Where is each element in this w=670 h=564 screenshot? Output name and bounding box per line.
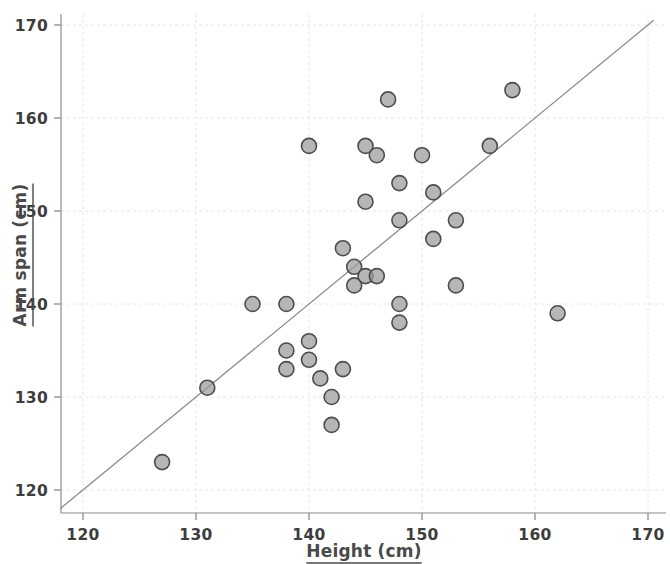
data-point: [482, 138, 497, 153]
data-point: [392, 176, 407, 191]
x-axis-title-text: Height (cm): [306, 541, 421, 561]
data-point: [426, 231, 441, 246]
data-point: [392, 213, 407, 228]
data-point: [245, 297, 260, 312]
data-point: [313, 371, 328, 386]
data-point: [302, 334, 317, 349]
x-tick-label-120: 120: [66, 526, 99, 544]
data-point: [335, 362, 350, 377]
x-tick-label-160: 160: [518, 526, 551, 544]
x-tick-label-130: 130: [179, 526, 212, 544]
data-point: [155, 455, 170, 470]
data-point: [415, 148, 430, 163]
data-point: [335, 241, 350, 256]
y-tick-label-170: 170: [15, 17, 48, 35]
data-point: [279, 297, 294, 312]
x-axis-label: Height (cm): [306, 541, 421, 563]
data-point: [381, 92, 396, 107]
y-axis-title-text: Arm span (cm): [10, 184, 30, 327]
scatter-plot-figure: 120130140150160170 120130140150160170 Ar…: [0, 0, 670, 564]
x-tick-label-170: 170: [631, 526, 664, 544]
data-point: [392, 297, 407, 312]
data-point: [448, 278, 463, 293]
y-tick-label-120: 120: [15, 482, 48, 500]
data-point: [392, 315, 407, 330]
data-point: [505, 83, 520, 98]
data-point: [279, 362, 294, 377]
y-tick-label-160: 160: [15, 110, 48, 128]
data-point: [279, 343, 294, 358]
data-point: [200, 380, 215, 395]
data-point: [324, 417, 339, 432]
data-point: [324, 390, 339, 405]
data-point: [358, 194, 373, 209]
data-point: [302, 138, 317, 153]
scatter-plot-svg: 120130140150160170 120130140150160170 Ar…: [0, 0, 670, 564]
data-point: [302, 352, 317, 367]
data-point: [550, 306, 565, 321]
data-point: [448, 213, 463, 228]
data-point: [426, 185, 441, 200]
data-point: [369, 148, 384, 163]
data-point: [369, 269, 384, 284]
y-axis-label: Arm span (cm): [10, 184, 33, 327]
y-tick-label-130: 130: [15, 389, 48, 407]
